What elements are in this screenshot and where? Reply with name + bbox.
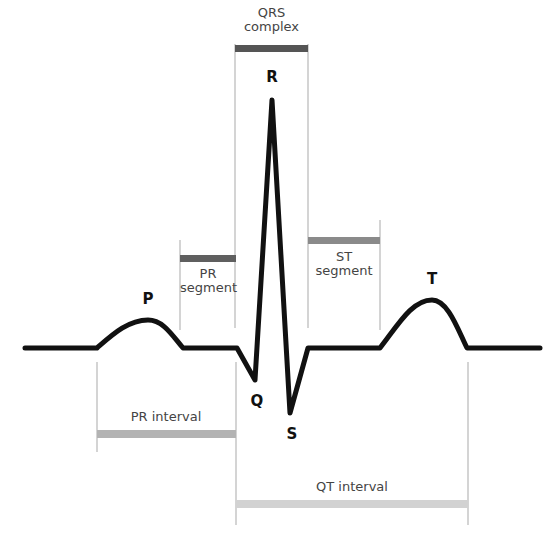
st-segment-label: ST segment (308, 250, 380, 279)
pr-segment-label: PR segment (180, 267, 236, 296)
qrs-complex-label-line2: complex (235, 20, 308, 34)
qt-interval-bar (236, 500, 468, 508)
t-wave-label: T (427, 270, 437, 288)
st-segment-label-line1: ST (308, 250, 380, 264)
qt-interval-bracket (236, 362, 468, 525)
qt-interval-label: QT interval (316, 480, 388, 494)
p-wave-label: P (143, 290, 154, 308)
pr-segment-bar (180, 255, 236, 262)
pr-segment-label-line2: segment (180, 281, 236, 295)
pr-interval-bar (97, 430, 236, 438)
qrs-complex-bar (235, 45, 308, 52)
ecg-trace (25, 100, 540, 413)
r-wave-label: R (266, 68, 278, 86)
qrs-complex-bracket (235, 44, 308, 328)
pr-interval-label: PR interval (131, 410, 202, 424)
qrs-complex-label-line1: QRS (235, 6, 308, 20)
st-segment-bar (308, 237, 380, 244)
s-wave-label: S (287, 425, 298, 443)
q-wave-label: Q (251, 392, 264, 410)
st-segment-label-line2: segment (308, 264, 380, 278)
pr-segment-label-line1: PR (180, 267, 236, 281)
pr-interval-bracket (97, 362, 236, 525)
qrs-complex-label: QRS complex (235, 6, 308, 35)
